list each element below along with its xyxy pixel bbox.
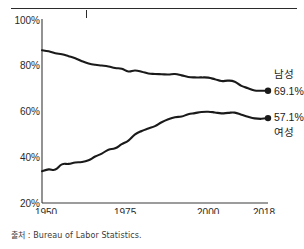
y-tick-label: 100% xyxy=(14,15,40,26)
x-tick-label: 2000 xyxy=(197,207,220,214)
series-label-male: 남성 xyxy=(274,68,294,80)
series-line-male xyxy=(42,50,268,91)
line-chart: 100% 80% 60% 40% 20% 남성 69.1% 57.1% 여성 1 xyxy=(0,14,304,214)
chart-svg: 100% 80% 60% 40% 20% 남성 69.1% 57.1% 여성 1 xyxy=(0,14,304,214)
source-note: 출처 : Bureau of Labor Statistics. xyxy=(11,229,142,240)
y-tick-label: 80% xyxy=(20,60,40,71)
series-value-female: 57.1% xyxy=(274,111,304,123)
chart-page: 100% 80% 60% 40% 20% 남성 69.1% 57.1% 여성 1 xyxy=(0,0,304,249)
series-line-female xyxy=(42,112,268,172)
x-tick-label: 1975 xyxy=(114,207,137,214)
series-label-female: 여성 xyxy=(274,126,294,138)
y-tick-label: 40% xyxy=(20,152,40,163)
x-tick-label: 2018 xyxy=(253,207,276,214)
series-endpoint-dot-female xyxy=(265,115,271,121)
series-value-male: 69.1% xyxy=(274,85,304,97)
y-tick-label: 60% xyxy=(20,106,40,117)
series-endpoint-dot-male xyxy=(265,88,271,94)
y-axis-tick-labels: 100% 80% 60% 40% 20% xyxy=(14,15,40,209)
top-divider-rule xyxy=(11,8,297,9)
x-axis-tick-labels: 1950 1975 2000 2018 xyxy=(35,207,276,214)
x-tick-label: 1950 xyxy=(35,207,58,214)
